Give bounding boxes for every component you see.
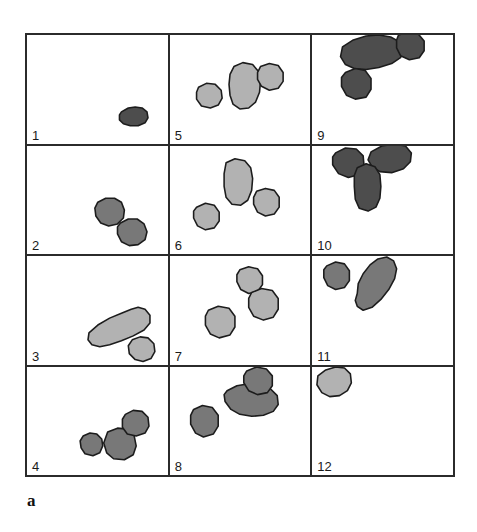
panel-label-5: 5	[175, 129, 182, 142]
panel-label-1: 1	[32, 129, 39, 142]
panel-label-10: 10	[317, 239, 331, 252]
panel-grid: 1 5 9 2 6 10 3 7	[25, 33, 455, 477]
panel-5: 5	[170, 35, 313, 146]
blob-9-1	[341, 35, 404, 70]
panel-10: 10	[312, 146, 455, 257]
figure-caption: a	[27, 492, 36, 509]
blob-12-1	[317, 367, 351, 397]
panel-11: 11	[312, 256, 455, 367]
panel-label-3: 3	[32, 350, 39, 363]
blob-7-3	[205, 306, 235, 338]
figure-root: 1 5 9 2 6 10 3 7	[0, 0, 477, 532]
blob-2-1	[95, 198, 125, 226]
panel-8-blobs	[170, 367, 311, 476]
blob-9-3	[342, 69, 372, 100]
panel-6-blobs	[170, 146, 311, 255]
panel-1: 1	[27, 35, 170, 146]
blob-3-2	[128, 337, 155, 362]
panel-label-9: 9	[317, 129, 324, 142]
panel-label-2: 2	[32, 239, 39, 252]
panel-7-blobs	[170, 256, 311, 365]
panel-7: 7	[170, 256, 313, 367]
blob-5-3	[257, 64, 283, 91]
blob-8-3	[190, 405, 218, 437]
panel-label-12: 12	[317, 460, 331, 473]
panel-label-8: 8	[175, 460, 182, 473]
panel-2: 2	[27, 146, 170, 257]
panel-label-4: 4	[32, 460, 39, 473]
panel-label-6: 6	[175, 239, 182, 252]
blob-4-3	[122, 410, 149, 436]
blob-6-1	[224, 158, 253, 204]
blob-10-3	[355, 163, 382, 210]
panel-12: 12	[312, 367, 455, 478]
panel-12-blobs	[312, 367, 453, 476]
panel-11-blobs	[312, 256, 453, 365]
panel-label-11: 11	[317, 350, 331, 363]
panel-10-blobs	[312, 146, 453, 255]
panel-8: 8	[170, 367, 313, 478]
blob-6-3	[193, 203, 219, 230]
blob-7-2	[248, 289, 278, 321]
panel-4-blobs	[27, 367, 168, 476]
panel-9-blobs	[312, 35, 453, 144]
blob-5-2	[229, 63, 260, 109]
blob-9-2	[397, 35, 425, 60]
panel-2-blobs	[27, 146, 168, 255]
blob-8-2	[243, 367, 272, 395]
panel-9: 9	[312, 35, 455, 146]
blob-11-2	[356, 257, 397, 310]
panel-4: 4	[27, 367, 170, 478]
panel-6: 6	[170, 146, 313, 257]
panel-label-7: 7	[175, 350, 182, 363]
panel-3: 3	[27, 256, 170, 367]
blob-1-1	[119, 107, 148, 126]
blob-4-1	[80, 433, 103, 456]
blob-6-2	[253, 188, 279, 216]
blob-5-1	[196, 83, 222, 108]
blob-11-1	[324, 262, 350, 290]
panel-5-blobs	[170, 35, 311, 144]
blob-2-2	[117, 218, 147, 245]
panel-3-blobs	[27, 256, 168, 365]
panel-1-blobs	[27, 35, 168, 144]
